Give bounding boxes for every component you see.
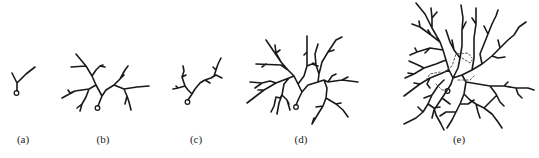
panel-label-d: (d): [295, 133, 308, 145]
panel-b-tree: [62, 54, 149, 111]
panel-a-tree: [12, 67, 35, 95]
panel-label-e: (e): [453, 133, 465, 145]
panel-c-tree: [173, 58, 222, 104]
panel-e-tree: [404, 3, 534, 130]
panel-label-c: (c): [190, 133, 202, 145]
panel-d-tree: [247, 36, 358, 124]
panel-label-b: (b): [97, 133, 110, 145]
panel-label-a: (a): [17, 133, 29, 145]
